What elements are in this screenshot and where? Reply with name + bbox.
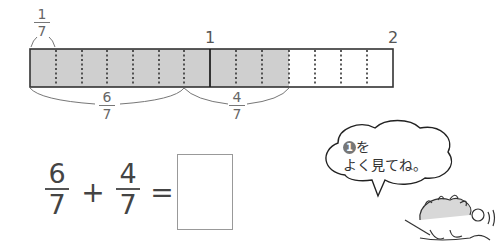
equation-term-2: 4 7 [116,160,140,218]
unit-bracket-left [31,37,37,47]
cartoon-character-icon [405,195,495,240]
plus-sign: + [81,176,104,209]
numerator: 4 [233,90,242,104]
four-sevenths-label: 4 7 [229,90,245,121]
unit-fraction-label: 1 7 [34,7,50,38]
answer-box[interactable] [177,154,233,230]
bubble-line-1: 1を [343,139,370,156]
tick-label-2: 2 [388,28,398,47]
denominator: 7 [48,191,65,218]
numerator: 4 [119,160,136,187]
bubble-line-1-suffix: を [356,139,370,155]
six-sevenths-label: 6 7 [99,90,115,121]
unit-bracket-right [49,37,55,47]
numerator: 6 [103,90,112,104]
circled-number-icon: 1 [343,141,356,154]
denominator: 7 [119,191,136,218]
equation-term-1: 6 7 [45,160,69,218]
bubble-line-2: よく見てね。 [343,157,427,174]
denominator: 7 [233,107,242,121]
numerator: 6 [48,160,65,187]
number-line-diagram [0,0,498,242]
denominator: 7 [103,107,112,121]
numerator: 1 [38,7,47,21]
tick-label-1: 1 [205,28,215,47]
equals-sign: = [150,176,173,209]
denominator: 7 [38,24,47,38]
